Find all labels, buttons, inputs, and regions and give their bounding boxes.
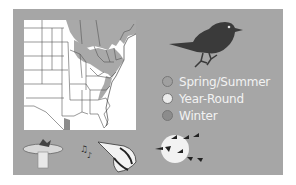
year-round-swatch [162,93,173,104]
spring-summer-swatch [162,76,173,87]
legend: Spring/Summer Year-Round Winter [162,73,282,124]
range-panel: Spring/Summer Year-Round Winter ♫ ♪ [13,9,283,175]
birdbath-icon [21,137,69,173]
legend-item-winter: Winter [162,107,282,124]
woodpecker-singing-icon: ♫ ♪ [78,136,140,174]
migrating-geese-icon [151,127,221,171]
legend-item-spring-summer: Spring/Summer [162,73,282,90]
bird-silhouette-icon [163,15,243,73]
legend-item-year-round: Year-Round [162,90,282,107]
legend-label: Year-Round [179,92,244,106]
svg-text:♪: ♪ [87,151,92,160]
legend-label: Spring/Summer [179,75,270,89]
map-icon [24,20,136,130]
legend-label: Winter [179,109,217,123]
winter-swatch [162,110,173,121]
range-map [24,20,136,130]
